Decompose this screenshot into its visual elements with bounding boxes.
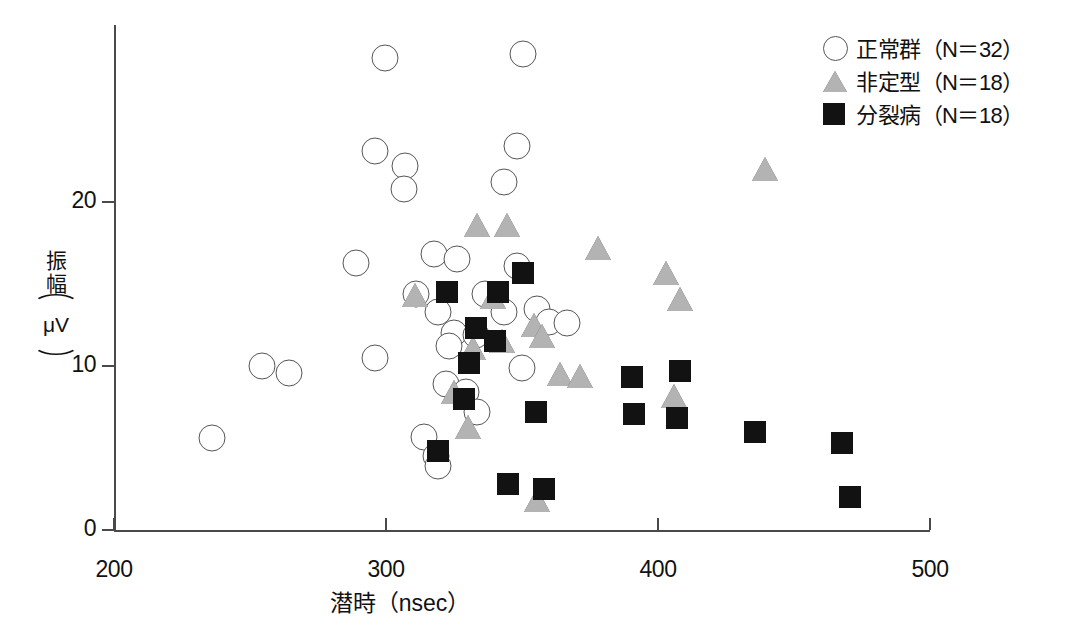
data-point-circle — [371, 44, 398, 71]
data-point-triangle — [567, 364, 593, 388]
legend-item-1: 非定型（N＝18） — [823, 63, 1073, 96]
data-point-circle — [424, 298, 451, 325]
data-point-square — [427, 440, 449, 462]
data-point-square — [839, 486, 861, 508]
data-point-triangle — [489, 329, 515, 353]
square-icon — [823, 100, 849, 126]
legend: 正常群（N＝32）非定型（N＝18）分裂病（N＝18） — [823, 30, 1073, 129]
data-point-circle — [491, 169, 518, 196]
data-point-square — [525, 401, 547, 423]
legend-label-0: 正常群（N＝32） — [856, 31, 1024, 63]
data-point-square — [623, 403, 645, 425]
data-point-triangle — [661, 384, 687, 408]
triangle-icon-glyph — [823, 71, 847, 92]
data-point-triangle — [529, 324, 555, 348]
data-point-circle — [462, 321, 489, 348]
data-point-square — [669, 360, 691, 382]
x-axis-title: 潜時（nsec） — [0, 584, 800, 618]
data-point-square — [512, 262, 534, 284]
data-point-circle — [509, 41, 536, 68]
y-tick-label-20: 20 — [50, 187, 96, 214]
circle-icon-glyph — [823, 36, 848, 61]
data-point-circle — [432, 371, 459, 398]
data-point-circle — [392, 152, 419, 179]
data-point-circle — [198, 425, 225, 452]
data-point-circle — [464, 398, 491, 425]
data-point-circle — [504, 252, 531, 279]
data-point-circle — [523, 295, 550, 322]
legend-item-2: 分裂病（N＝18） — [823, 96, 1073, 129]
y-axis-title-unit: μV — [36, 314, 76, 337]
data-point-square — [744, 421, 766, 443]
data-point-triangle — [585, 236, 611, 260]
data-point-circle — [276, 359, 303, 386]
data-point-triangle — [460, 336, 486, 360]
y-axis-line — [114, 25, 116, 530]
data-point-square — [621, 366, 643, 388]
data-point-circle — [509, 354, 536, 381]
data-point-triangle — [547, 362, 573, 386]
data-point-triangle — [667, 287, 693, 311]
data-point-triangle — [402, 283, 428, 307]
y-tick-label-0: 0 — [50, 515, 96, 542]
data-point-circle — [362, 138, 389, 165]
triangle-icon — [823, 67, 849, 93]
y-axis-paren-bottom: ⌒ — [16, 338, 96, 351]
data-point-square — [487, 281, 509, 303]
data-point-square — [831, 432, 853, 454]
data-point-square — [458, 352, 480, 374]
data-point-circle — [435, 333, 462, 360]
x-tick-500 — [929, 518, 931, 530]
y-tick-20 — [102, 201, 114, 203]
data-point-circle — [343, 249, 370, 276]
data-point-square — [484, 330, 506, 352]
data-point-circle — [443, 246, 470, 273]
data-point-circle — [362, 344, 389, 371]
data-point-triangle — [494, 213, 520, 237]
data-point-circle — [553, 310, 580, 337]
data-point-circle — [249, 353, 276, 380]
y-tick-0 — [102, 529, 114, 531]
data-point-square — [436, 281, 458, 303]
data-point-triangle — [653, 261, 679, 285]
data-point-triangle — [752, 157, 778, 181]
legend-item-0: 正常群（N＝32） — [823, 30, 1073, 63]
data-point-triangle — [441, 380, 467, 404]
y-axis-title-kanji: 振幅 — [36, 250, 76, 295]
data-point-circle — [441, 320, 468, 347]
x-tick-label-300: 300 — [346, 556, 426, 583]
x-tick-label-500: 500 — [890, 556, 970, 583]
data-point-square — [453, 388, 475, 410]
data-point-square — [497, 473, 519, 495]
data-point-circle — [390, 175, 417, 202]
data-point-circle — [453, 379, 480, 406]
legend-label-1: 非定型（N＝18） — [856, 64, 1024, 96]
scatter-plot-figure: 20030040050001020 振幅 ⌒ μV ⌒ 潜時（nsec） 正常群… — [0, 0, 1083, 644]
x-axis-line — [114, 530, 930, 532]
data-point-circle — [423, 443, 450, 470]
data-point-triangle — [464, 213, 490, 237]
data-point-triangle — [521, 313, 547, 337]
x-tick-400 — [657, 518, 659, 530]
data-point-triangle — [455, 415, 481, 439]
data-point-circle — [420, 241, 447, 268]
data-point-square — [666, 407, 688, 429]
data-point-circle — [411, 423, 438, 450]
data-point-square — [465, 317, 487, 339]
data-point-circle — [424, 453, 451, 480]
square-icon-glyph — [823, 103, 845, 125]
data-point-circle — [536, 308, 563, 335]
circle-icon — [823, 34, 849, 60]
x-tick-300 — [385, 518, 387, 530]
x-tick-label-200: 200 — [74, 556, 154, 583]
x-tick-label-400: 400 — [618, 556, 698, 583]
data-point-triangle — [524, 488, 550, 512]
data-point-circle — [402, 280, 429, 307]
data-point-circle — [491, 298, 518, 325]
data-point-square — [533, 478, 555, 500]
data-point-triangle — [480, 285, 506, 309]
y-axis-title: 振幅 ⌒ μV ⌒ — [36, 250, 76, 352]
y-tick-10 — [102, 365, 114, 367]
x-tick-200 — [113, 518, 115, 530]
legend-label-2: 分裂病（N＝18） — [856, 97, 1024, 129]
